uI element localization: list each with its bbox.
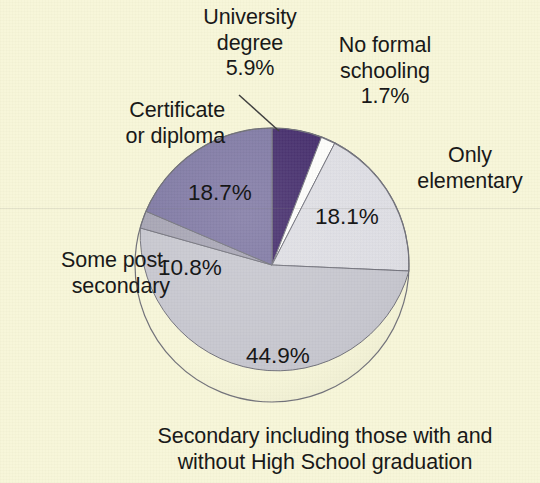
pie-chart-figure: University degree 5.9% No formal schooli… — [0, 0, 540, 483]
pie-label-no-formal-schooling: No formal schooling 1.7% — [300, 33, 470, 110]
pie-caption-secondary: Secondary including those with and witho… — [110, 424, 540, 475]
pie-value-secondary: 44.9% — [246, 343, 310, 369]
pie-label-some-post-secondary: Some post- secondary — [0, 248, 170, 299]
pie-label-only-elementary: Only elementary — [400, 143, 540, 194]
pie-value-only-elementary: 18.1% — [315, 204, 379, 230]
leader-line-university-degree — [239, 95, 279, 131]
pie-value-certificate-or-diploma: 18.7% — [188, 180, 252, 206]
pie-value-some-post-secondary: 10.8% — [158, 255, 222, 281]
pie-label-certificate-or-diploma: Certificate or diploma — [35, 98, 225, 149]
